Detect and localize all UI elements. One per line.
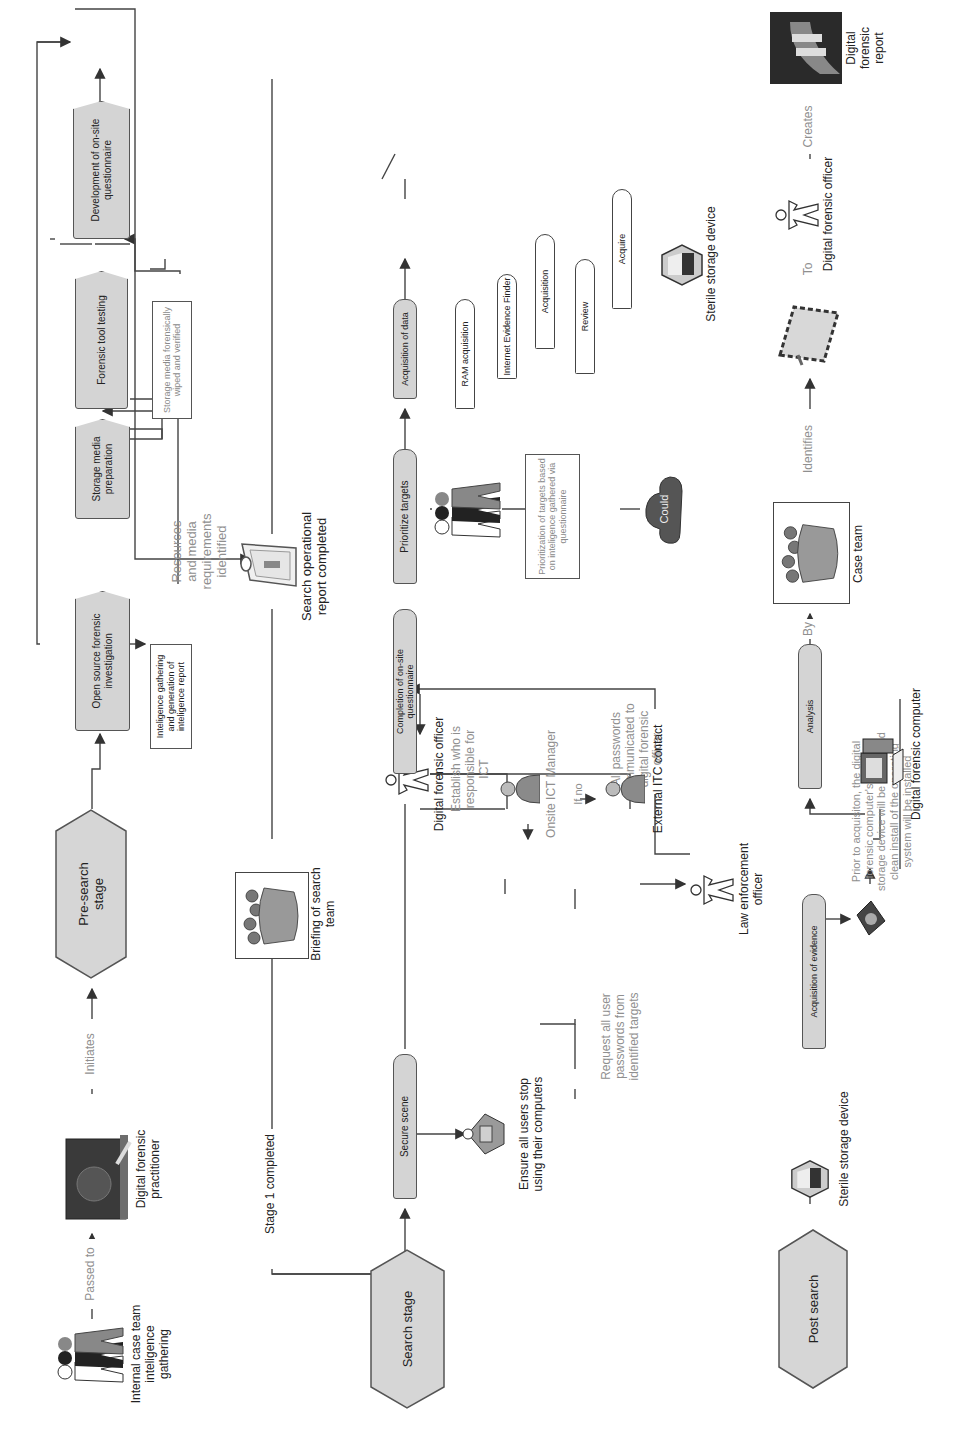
forensic-computer-label: Digital forensic computer (910, 679, 924, 829)
cloud-icon[interactable]: Could (640, 471, 688, 547)
forensic-practitioner-label: Digital forensic practitioner (135, 1119, 163, 1219)
case-team-image[interactable] (773, 502, 850, 604)
resources-identified-label: Resources and media requirements identif… (170, 509, 230, 594)
external-contact-icon (605, 769, 645, 809)
if-no-label: If no (572, 764, 585, 824)
edge-label-to: To (802, 254, 816, 284)
acquire-pill[interactable]: Acquire (612, 189, 632, 309)
search-stage-hexagon[interactable]: Search stage (370, 1249, 445, 1409)
forensic-tool-testing-box[interactable]: Forensic tool testing (75, 271, 128, 409)
storage-wiped-note: Storage media forensically wiped and ver… (152, 301, 192, 419)
open-source-investigation-box[interactable]: Open source forensic investigation (75, 591, 130, 731)
forensic-computer-icon (855, 734, 905, 789)
open-source-investigation-label: Open source forensic investigation (91, 609, 114, 714)
edge-label-creates: Creates (802, 99, 816, 154)
briefing-team-image[interactable] (235, 872, 309, 959)
sterile-storage-device-icon (660, 243, 704, 287)
sterile-storage-device-post-icon (790, 1159, 830, 1199)
case-team-label: Case team (852, 509, 866, 599)
pre-search-stage-hexagon[interactable]: Pre-search stage (55, 809, 127, 979)
completion-questionnaire-box[interactable]: Completion of on-site questionnaire (393, 609, 417, 774)
request-passwords-label: Request all user passwords from identifi… (600, 984, 641, 1089)
clipboard-report-icon[interactable] (238, 536, 300, 594)
analysis-box[interactable]: Analysis (798, 644, 822, 789)
acquisition-of-data-box[interactable]: Acquisition of data (393, 299, 417, 399)
forensic-officer-label: Digital forensic officer (433, 714, 447, 834)
diagram-canvas: Internal case team inteligence gathering… (0, 0, 965, 1439)
sterile-storage-device-label: Sterile storage device (705, 199, 719, 329)
storage-media-preparation-box[interactable]: Storage media preparation (75, 419, 130, 519)
ensure-users-stop-label: Ensure all users stop using their comput… (518, 1074, 546, 1194)
edge-label-passed-to: Passed to (84, 1239, 98, 1309)
stage1-completed-label: Stage 1 completed (264, 1129, 278, 1239)
onsite-ict-manager-label: Onsite ICT Manager (545, 729, 559, 839)
review-pill[interactable]: Review (575, 259, 595, 374)
hard-drive-icon (855, 899, 890, 939)
team-group-icon (55, 1324, 125, 1384)
law-officer-label: Law enforcement officer (738, 839, 766, 939)
post-search-hexagon[interactable]: Post search (778, 1229, 848, 1389)
acquisition-of-evidence-box[interactable]: Acquisition of evidence (802, 894, 826, 1049)
edge-label-by: By (802, 619, 816, 639)
acquisition-pill[interactable]: Acquisition (535, 234, 555, 349)
edge-label-initiates: Initiates (84, 1019, 98, 1089)
ram-acquisition-pill[interactable]: RAM acquisition (455, 299, 475, 409)
briefing-team-label: Briefing of search team (310, 859, 338, 969)
user-at-computer-icon (460, 1104, 510, 1164)
forensic-practitioner-icon (62, 1129, 132, 1224)
search-report-label: Search operational report completed (300, 509, 330, 624)
sterile-storage-device-post-label: Sterile storage device (838, 1084, 852, 1214)
ict-manager-icon (500, 769, 540, 809)
edge-label-identifies: Identifies (802, 419, 816, 479)
internal-case-team-label: Internal case team inteligence gathering (130, 1299, 171, 1409)
intel-report-note: Inteligence gathering and generation of … (150, 644, 192, 749)
law-officer-icon (690, 866, 735, 914)
evidence-bag-icon (772, 297, 844, 369)
external-itc-label: External ITC contact (652, 719, 666, 839)
cloud-label: Could (658, 495, 670, 524)
forensic-officer-post-label: Digital forensic officer (822, 149, 836, 279)
pre-search-stage-label: Pre-search stage (76, 859, 106, 929)
forensic-officer-post-icon (775, 191, 820, 239)
targets-group-icon (432, 479, 502, 539)
prioritization-note: Prioritization of targets based on intel… (525, 454, 580, 579)
secure-scene-box[interactable]: Secure scene (393, 1054, 417, 1199)
forensic-report-icon[interactable] (770, 12, 842, 84)
prioritize-targets-box[interactable]: Prioritize targets (393, 449, 417, 584)
questionnaire-development-box[interactable]: Development of on-site questionnaire (73, 101, 130, 239)
forensic-report-label: Digital forensic report (845, 12, 886, 84)
establish-ict-label: Establish who is responsible for ICT (450, 724, 491, 814)
internet-evidence-finder-pill[interactable]: Internet Evidence Finder (497, 274, 517, 379)
